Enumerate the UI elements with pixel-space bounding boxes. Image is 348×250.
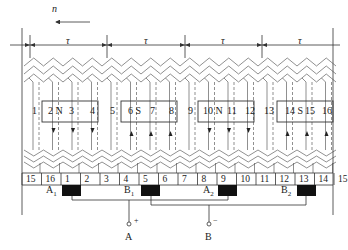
pole-n2-label: 10 N — [203, 106, 223, 116]
terminal-b-icon — [207, 222, 211, 226]
commutator-segment: 9 — [221, 174, 226, 184]
commutator-segment: 2 — [85, 174, 90, 184]
commutator-segment: 6 — [163, 174, 168, 184]
pole-pitch-1: τ — [66, 36, 70, 46]
pole-pitch-2: τ — [144, 36, 148, 46]
commutator-segment: 11 — [260, 174, 269, 184]
pole-n1-label: 2 N — [48, 106, 63, 116]
terminal-a-polarity: + — [134, 216, 139, 226]
slot-9: 9 — [188, 106, 193, 116]
brush-a2-label: A2 — [203, 185, 214, 199]
slot-3: 3 — [69, 106, 74, 116]
terminal-b-polarity: − — [213, 216, 218, 226]
brush-b2-label: B2 — [281, 185, 291, 199]
terminal-a-icon — [127, 222, 131, 226]
brush-a2 — [218, 185, 237, 196]
direction-label: n — [52, 4, 57, 14]
slot-11: 11 — [227, 106, 237, 116]
slot-16: 16 — [322, 106, 332, 116]
commutator-segment: 8 — [202, 174, 207, 184]
slot-15: 15 — [305, 106, 315, 116]
slot-8: 8 — [169, 106, 174, 116]
terminal-a-label: A — [125, 232, 132, 242]
pole-s1-label: 6 S — [128, 106, 141, 116]
brush-a1 — [62, 185, 81, 196]
slot-5: 5 — [110, 106, 115, 116]
pole-s2-label: 14 S — [285, 106, 303, 116]
commutator-segment: 16 — [46, 174, 56, 184]
commutator-segment: 10 — [241, 174, 251, 184]
slot-12: 12 — [245, 106, 255, 116]
commutator-segment: 1 — [65, 174, 70, 184]
commutator-segment: 13 — [299, 174, 309, 184]
commutator-segment: 14 — [319, 174, 329, 184]
pole-pitch-3: τ — [221, 36, 225, 46]
commutator-segment: 5 — [143, 174, 148, 184]
slot-7: 7 — [150, 106, 155, 116]
slot-4: 4 — [90, 106, 95, 116]
commutator-segment: 3 — [104, 174, 109, 184]
slot-13: 13 — [264, 106, 274, 116]
commutator-segment: 4 — [124, 174, 129, 184]
commutator-segment: 12 — [280, 174, 290, 184]
commutator-segment: 15 — [26, 174, 36, 184]
commutator-segment: 7 — [182, 174, 187, 184]
brush-b1-label: B1 — [124, 185, 134, 199]
terminal-b-label: B — [205, 232, 212, 242]
brush-b1 — [141, 185, 160, 196]
pole-pitch-4: τ — [298, 36, 302, 46]
slot-1: 1 — [32, 106, 37, 116]
commutator-segment: 15 — [338, 174, 348, 184]
brush-a1-label: A1 — [46, 185, 57, 199]
brush-b2 — [297, 185, 316, 196]
